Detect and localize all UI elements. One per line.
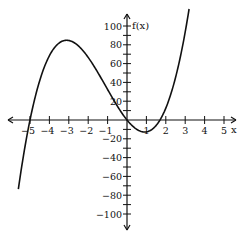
x-tick-label: −4 [40, 125, 54, 136]
y-axis-label: f(x) [132, 20, 149, 31]
y-tick-label: 100 [104, 21, 122, 32]
x-tick-label: 5 [221, 125, 227, 136]
y-tick-label: 80 [110, 39, 122, 50]
axes [8, 14, 236, 230]
y-tick-label: 40 [110, 77, 122, 88]
x-tick-label: 2 [163, 125, 169, 136]
x-tick-label: 3 [182, 125, 188, 136]
y-tick-label: −80 [102, 190, 122, 201]
x-axis-label: x [231, 124, 237, 135]
y-tick-label: 60 [110, 58, 122, 69]
function-graph: −5−4−3−2−112345−100−80−60−40−20204060801… [0, 0, 244, 242]
x-tick-label: −2 [79, 125, 93, 136]
y-tick-label: −60 [102, 171, 122, 182]
x-tick-label: 4 [202, 125, 208, 136]
y-tick-label: −40 [102, 152, 122, 163]
y-tick-label: −20 [102, 133, 122, 144]
x-tick-label: −3 [60, 125, 74, 136]
y-tick-label: −100 [96, 209, 122, 220]
